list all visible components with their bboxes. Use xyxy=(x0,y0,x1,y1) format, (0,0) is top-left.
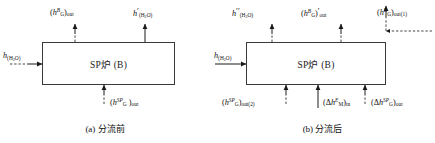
label-top-right-a: h′(H2O) xyxy=(133,8,152,19)
caption-b: (b) 分流后 xyxy=(210,122,435,135)
label-bottom-left-b: (hSPG)out(2) xyxy=(222,98,255,108)
label-top-right-b: (hBG)out(1) xyxy=(377,8,407,18)
label-bottom-center-b: (ΔhEM)in xyxy=(323,98,350,108)
diagram-panel-b: SP炉 (B) h′′(H2O) (hBG)′out (hBG)out(1) h… xyxy=(210,0,435,143)
label-inlet-left-a: h(H2O) xyxy=(3,52,21,61)
label-inlet-left-b: h(H2O) xyxy=(214,52,232,61)
diagram-panel-a: SP炉 (B) (hBG)out h′(H2O) h(H2O) (hSPG )o… xyxy=(0,0,210,143)
process-box-label-a: SP炉 (B) xyxy=(43,57,174,71)
process-box-label-b: SP炉 (B) xyxy=(247,57,385,71)
caption-a: (a) 分流前 xyxy=(0,122,210,135)
figure-canvas: SP炉 (B) (hBG)out h′(H2O) h(H2O) (hSPG )o… xyxy=(0,0,435,143)
label-top-left-b: h′′(H2O) xyxy=(232,8,253,19)
label-top-center-b: (hBG)′out xyxy=(301,8,326,19)
label-top-left-a: (hBG)out xyxy=(50,8,74,18)
label-bottom-center-a: (hSPG )out xyxy=(110,98,138,108)
label-bottom-right-b: (ΔhSPG)out xyxy=(371,98,403,108)
process-box-a: SP炉 (B) xyxy=(42,42,175,85)
process-box-b: SP炉 (B) xyxy=(246,42,386,85)
